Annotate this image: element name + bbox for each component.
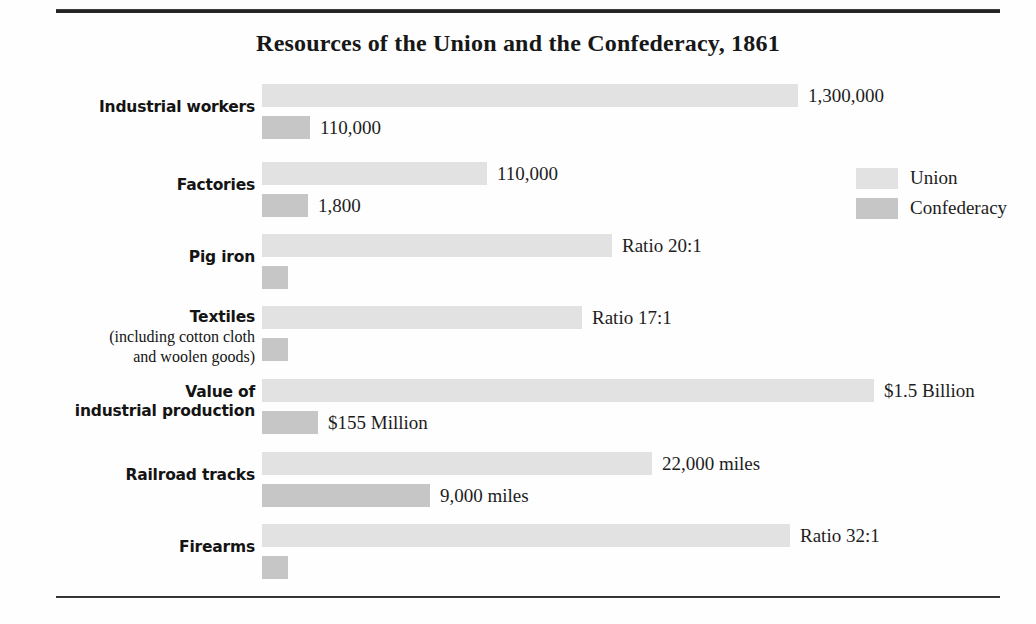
chart-figure: Resources of the Union and the Confedera… <box>0 0 1036 624</box>
row-label-pig-iron: Pig iron <box>0 248 255 267</box>
bar-confederacy-pig-iron <box>262 266 288 289</box>
row-label-value-line2: industrial production <box>75 402 255 420</box>
chart-row-railroad-tracks: Railroad tracks 22,000 miles 9,000 miles <box>0 448 1036 518</box>
bar-value-confederacy-industrial-workers: 110,000 <box>320 116 381 139</box>
bar-value-confederacy-factories: 1,800 <box>318 194 361 217</box>
bar-confederacy-factories <box>262 194 308 217</box>
chart-row-firearms: Firearms Ratio 32:1 <box>0 520 1036 590</box>
chart-row-textiles: Textiles (including cotton cloth and woo… <box>0 302 1036 380</box>
row-label-industrial-workers: Industrial workers <box>0 98 255 117</box>
legend-item-union: Union <box>856 164 1026 194</box>
bar-value-union-railroad-tracks: 22,000 miles <box>662 452 760 475</box>
row-label-textiles-main: Textiles <box>190 308 255 326</box>
bar-union-pig-iron <box>262 234 612 257</box>
bar-union-textiles <box>262 306 582 329</box>
bar-value-confederacy-railroad-tracks: 9,000 miles <box>440 484 529 507</box>
bar-value-union-value-of-industrial-production: $1.5 Billion <box>884 379 975 402</box>
bar-value-union-textiles: Ratio 17:1 <box>592 306 672 329</box>
bar-confederacy-industrial-workers <box>262 116 310 139</box>
top-rule <box>56 9 1000 13</box>
bar-value-union-industrial-workers: 1,300,000 <box>808 84 884 107</box>
bar-value-confederacy-value-of-industrial-production: $155 Million <box>328 411 428 434</box>
legend-swatch-union-icon <box>856 168 898 189</box>
legend-label-union: Union <box>910 164 958 194</box>
bar-chart-plot-area: Industrial workers 1,300,000 110,000 Fac… <box>0 80 1036 580</box>
bar-union-firearms <box>262 524 790 547</box>
row-label-firearms: Firearms <box>0 538 255 557</box>
legend-swatch-confederacy-icon <box>856 198 898 219</box>
row-label-value-line1: Value of <box>185 383 255 401</box>
bar-value-union-firearms: Ratio 32:1 <box>800 524 880 547</box>
bar-confederacy-value-of-industrial-production <box>262 411 318 434</box>
bar-confederacy-firearms <box>262 556 288 579</box>
chart-row-industrial-workers: Industrial workers 1,300,000 110,000 <box>0 80 1036 150</box>
row-label-textiles: Textiles (including cotton cloth and woo… <box>0 308 255 367</box>
bar-union-factories <box>262 162 487 185</box>
bar-union-railroad-tracks <box>262 452 652 475</box>
bar-value-union-pig-iron: Ratio 20:1 <box>622 234 702 257</box>
row-label-textiles-sub-line1: (including cotton cloth <box>0 327 255 347</box>
row-label-factories: Factories <box>0 176 255 195</box>
row-label-textiles-sub-line2: and woolen goods) <box>0 347 255 367</box>
row-label-value-of-industrial-production: Value of industrial production <box>0 383 255 421</box>
chart-legend: Union Confederacy <box>856 164 1026 224</box>
bar-union-industrial-workers <box>262 84 798 107</box>
bar-confederacy-textiles <box>262 338 288 361</box>
legend-label-confederacy: Confederacy <box>910 194 1007 224</box>
bar-union-value-of-industrial-production <box>262 379 874 402</box>
bottom-rule <box>56 596 1000 598</box>
bar-value-union-factories: 110,000 <box>497 162 558 185</box>
chart-row-pig-iron: Pig iron Ratio 20:1 <box>0 230 1036 300</box>
page-title: Resources of the Union and the Confedera… <box>0 30 1036 57</box>
legend-item-confederacy: Confederacy <box>856 194 1026 224</box>
row-label-railroad-tracks: Railroad tracks <box>0 466 255 485</box>
chart-row-value-of-industrial-production: Value of industrial production $1.5 Bill… <box>0 375 1036 445</box>
bar-confederacy-railroad-tracks <box>262 484 430 507</box>
